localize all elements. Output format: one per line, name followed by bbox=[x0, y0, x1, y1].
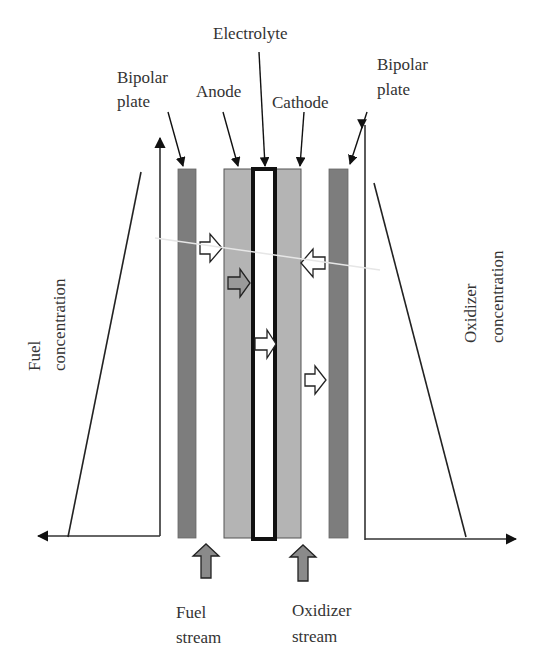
label-oxidizer-concentration-1: Oxidizer bbox=[460, 284, 481, 343]
label-bipolar-plate-right-2: plate bbox=[377, 80, 410, 100]
label-fuel-concentration-1: Fuel bbox=[24, 341, 45, 371]
fuel-diffusion-arrow-icon bbox=[200, 234, 222, 262]
oxidizer-stream-arrow-icon bbox=[290, 545, 316, 581]
label-oxidizer-concentration-2: concentration bbox=[487, 250, 508, 343]
label-bipolar-plate-right-1: Bipolar bbox=[377, 55, 428, 75]
oxidizer-diffusion-arrow-icon bbox=[301, 249, 325, 277]
label-oxidizer-stream-2: stream bbox=[292, 627, 337, 647]
bipolar-plate-right bbox=[329, 169, 348, 538]
label-cathode: Cathode bbox=[272, 93, 329, 113]
label-fuel-stream-2: stream bbox=[176, 628, 221, 648]
label-anode: Anode bbox=[196, 82, 241, 102]
anode bbox=[224, 169, 254, 538]
label-bipolar-plate-left-2: plate bbox=[117, 92, 150, 112]
fuel-concentration-line bbox=[68, 172, 141, 537]
fuel-stream-arrow-icon bbox=[193, 544, 219, 578]
label-oxidizer-stream-1: Oxidizer bbox=[292, 601, 351, 621]
label-electrolyte: Electrolyte bbox=[213, 24, 288, 44]
product-arrow-icon bbox=[305, 366, 326, 394]
label-pointers bbox=[168, 52, 367, 166]
oxidizer-concentration-line bbox=[374, 183, 466, 537]
electrolyte bbox=[253, 169, 275, 539]
cathode bbox=[274, 169, 301, 538]
label-fuel-stream-1: Fuel bbox=[176, 603, 206, 623]
label-bipolar-plate-left-1: Bipolar bbox=[117, 68, 168, 88]
bipolar-plate-left bbox=[178, 169, 196, 538]
label-fuel-concentration-2: concentration bbox=[49, 278, 70, 371]
